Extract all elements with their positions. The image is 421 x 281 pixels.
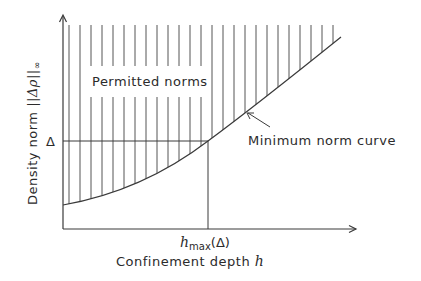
region-label: Permitted norms: [92, 74, 208, 89]
permitted-region-hatching: [69, 25, 333, 230]
hmax-sub: max: [189, 241, 211, 252]
y-axis-label-norm: ||Δρ||: [25, 69, 40, 107]
minimum-norm-curve: [63, 37, 341, 205]
x-axis-label-text: Confinement depth: [116, 254, 255, 269]
diagram-canvas: Permitted norms Minimum norm curve Δ hma…: [0, 0, 421, 281]
y-axis-label-sub: ∞: [32, 61, 42, 69]
hmax-label: hmax(Δ): [180, 234, 230, 252]
x-axis-label-var: h: [255, 253, 265, 269]
hmax-base: h: [180, 234, 189, 250]
hmax-arg: (Δ): [211, 235, 230, 250]
curve-pointer-arrow-icon: [247, 113, 270, 127]
delta-tick-label: Δ: [46, 134, 55, 149]
y-axis-label: Density norm ||Δρ||∞: [25, 61, 42, 205]
curve-label: Minimum norm curve: [248, 133, 396, 148]
y-axis-label-text: Density norm: [25, 107, 40, 205]
x-axis-label: Confinement depth h: [116, 253, 264, 269]
